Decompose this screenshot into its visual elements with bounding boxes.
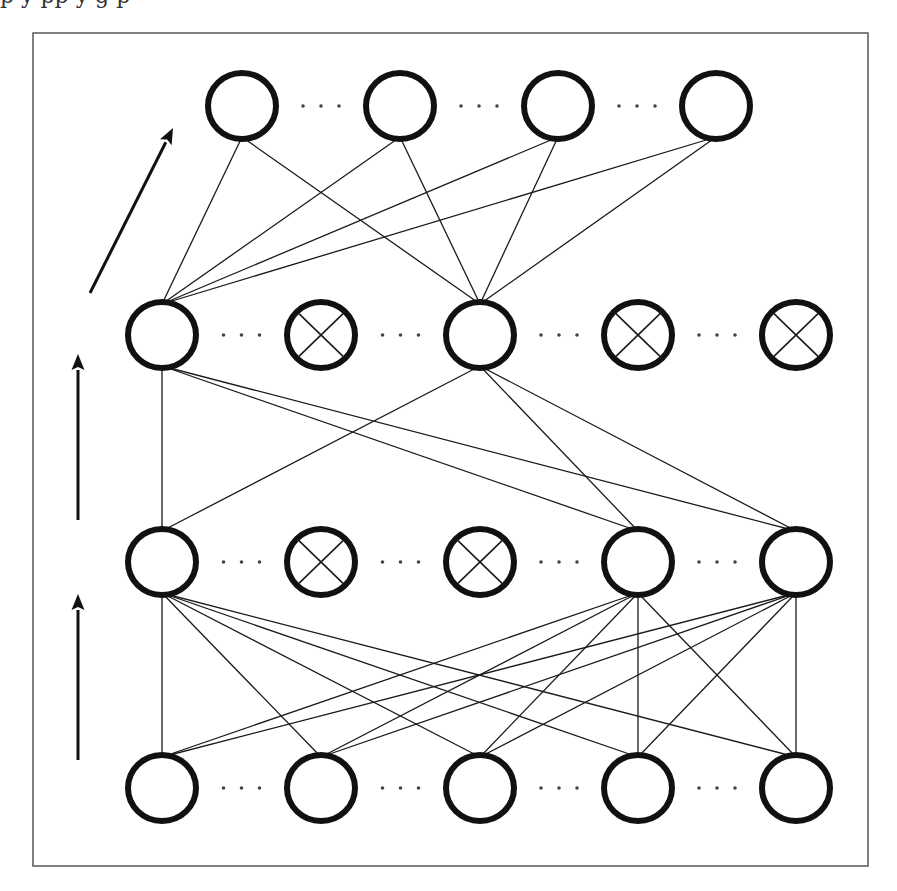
ellipsis-dot (477, 104, 481, 108)
edge-line (162, 593, 480, 757)
edge-line (400, 137, 480, 304)
edge-line (162, 137, 242, 304)
network-nodes (128, 73, 830, 821)
active-unit-icon (128, 302, 196, 368)
active-unit-icon (682, 73, 750, 139)
dropped-unit-icon (762, 302, 830, 368)
active-unit-icon (208, 73, 276, 139)
edge-line (480, 137, 558, 304)
dropped-unit-icon (604, 302, 672, 368)
ellipsis-dot (539, 333, 543, 337)
ellipsis-dot (539, 786, 543, 790)
ellipsis-dot (222, 333, 226, 337)
active-unit-icon (366, 73, 434, 139)
ellipsis-dot (381, 560, 385, 564)
ellipsis-dot (417, 560, 421, 564)
ellipsis-dot (557, 333, 561, 337)
ellipsis-dot (258, 560, 262, 564)
edge-line (162, 137, 400, 304)
ellipsis-dot (381, 333, 385, 337)
ellipsis-dot (399, 786, 403, 790)
ellipsis-dot (459, 104, 463, 108)
edge-line (162, 137, 716, 304)
ellipsis-dot (697, 786, 701, 790)
active-unit-icon (762, 755, 830, 821)
dropped-unit-icon (446, 529, 514, 595)
ellipsis-dot (258, 786, 262, 790)
edge-line (162, 366, 796, 531)
arrow-hidden1-to-hidden2-icon (72, 354, 85, 520)
edge-line (480, 366, 796, 531)
edge-line (242, 137, 480, 304)
ellipsis-dot (337, 104, 341, 108)
ellipsis-dot (539, 560, 543, 564)
active-unit-icon (446, 755, 514, 821)
ellipsis-dot (697, 560, 701, 564)
ellipsis-dot (715, 333, 719, 337)
ellipsis-dot (495, 104, 499, 108)
ellipsis-dot (240, 786, 244, 790)
arrow-input-to-hidden1-icon (72, 594, 85, 760)
ellipsis-dot (399, 560, 403, 564)
dropped-unit-icon (287, 529, 355, 595)
ellipsis-dot (557, 560, 561, 564)
ellipsis-dot (575, 333, 579, 337)
ellipsis-dot (240, 560, 244, 564)
flow-arrows (72, 128, 174, 760)
ellipsis-dot (399, 333, 403, 337)
ellipsis-dot (319, 104, 323, 108)
active-unit-icon (128, 529, 196, 595)
ellipsis-dot (733, 786, 737, 790)
ellipsis-dot (715, 786, 719, 790)
edge-line (162, 593, 321, 757)
ellipsis-dot (222, 786, 226, 790)
ellipsis-dot (258, 333, 262, 337)
ellipsis-dot (697, 333, 701, 337)
active-unit-icon (524, 73, 592, 139)
ellipsis-dot (417, 333, 421, 337)
active-unit-icon (762, 529, 830, 595)
edge-line (162, 366, 638, 531)
ellipsis-dot (653, 104, 657, 108)
ellipsis-dot (557, 786, 561, 790)
active-unit-icon (287, 755, 355, 821)
edge-line (321, 593, 796, 757)
active-unit-icon (446, 302, 514, 368)
arrow-hidden2-to-output-icon (90, 128, 173, 293)
dropout-network-diagram (0, 0, 897, 891)
connection-edges (162, 137, 796, 757)
ellipsis-dot (635, 104, 639, 108)
edge-line (162, 366, 480, 531)
edge-line (480, 366, 638, 531)
ellipsis-dot (417, 786, 421, 790)
active-unit-icon (604, 529, 672, 595)
ellipsis-dot (575, 560, 579, 564)
ellipsis-dot (301, 104, 305, 108)
ellipsis-dots (222, 104, 737, 790)
active-unit-icon (604, 755, 672, 821)
ellipsis-dot (240, 333, 244, 337)
ellipsis-dot (715, 560, 719, 564)
ellipsis-dot (222, 560, 226, 564)
ellipsis-dot (617, 104, 621, 108)
edge-line (480, 137, 716, 304)
ellipsis-dot (575, 786, 579, 790)
ellipsis-dot (381, 786, 385, 790)
ellipsis-dot (733, 333, 737, 337)
active-unit-icon (128, 755, 196, 821)
ellipsis-dot (733, 560, 737, 564)
dropped-unit-icon (287, 302, 355, 368)
